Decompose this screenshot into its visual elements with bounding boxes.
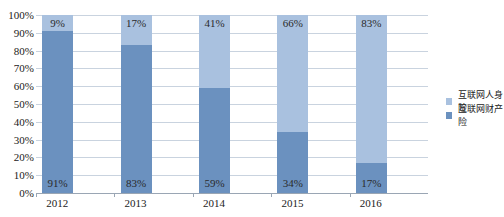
- bar-segment-property: [121, 45, 152, 193]
- bar-segment-life: [277, 15, 308, 132]
- legend-swatch-property: [446, 112, 452, 119]
- x-tick-label: 2016: [351, 197, 391, 209]
- legend-label-property: 互联网财产险: [458, 102, 504, 128]
- data-label-life: 17%: [121, 17, 152, 29]
- x-tick-label: 2015: [272, 197, 312, 209]
- data-label-property: 59%: [199, 177, 230, 189]
- y-tick-label: 20%: [0, 151, 34, 163]
- y-tick-label: 10%: [0, 169, 34, 181]
- bar-2013: 17%83%: [121, 15, 152, 193]
- data-label-property: 17%: [356, 177, 387, 189]
- x-tick-mark: [193, 193, 194, 197]
- x-axis-line: [36, 193, 428, 194]
- x-tick-label: 2013: [116, 197, 156, 209]
- data-label-property: 91%: [42, 177, 73, 189]
- y-tick-label: 60%: [0, 80, 34, 92]
- plot-area: 9%91%17%83%41%59%66%34%83%17%: [36, 15, 428, 193]
- data-label-life: 83%: [356, 17, 387, 29]
- bar-2015: 66%34%: [277, 15, 308, 193]
- bar-2012: 9%91%: [42, 15, 73, 193]
- data-label-property: 34%: [277, 177, 308, 189]
- y-tick-label: 100%: [0, 9, 34, 21]
- y-tick-label: 40%: [0, 116, 34, 128]
- legend-swatch-life: [446, 98, 452, 105]
- bar-segment-life: [356, 15, 387, 163]
- data-label-life: 66%: [277, 17, 308, 29]
- data-label-property: 83%: [121, 177, 152, 189]
- data-label-life: 41%: [199, 17, 230, 29]
- x-tick-mark: [114, 193, 115, 197]
- legend-item-property: 互联网财产险: [446, 108, 504, 122]
- y-tick-label: 30%: [0, 134, 34, 146]
- x-tick-mark: [36, 193, 37, 197]
- x-tick-mark: [350, 193, 351, 197]
- x-tick-mark: [271, 193, 272, 197]
- bar-2014: 41%59%: [199, 15, 230, 193]
- y-tick-label: 70%: [0, 62, 34, 74]
- bar-segment-property: [42, 31, 73, 193]
- x-tick-label: 2012: [37, 197, 77, 209]
- y-tick-label: 80%: [0, 45, 34, 57]
- bar-2016: 83%17%: [356, 15, 387, 193]
- y-tick-label: 0%: [0, 187, 34, 199]
- x-tick-label: 2014: [194, 197, 234, 209]
- data-label-life: 9%: [42, 17, 73, 29]
- legend: 互联网人身险 互联网财产险: [446, 94, 504, 122]
- y-tick-label: 50%: [0, 98, 34, 110]
- y-tick-label: 90%: [0, 27, 34, 39]
